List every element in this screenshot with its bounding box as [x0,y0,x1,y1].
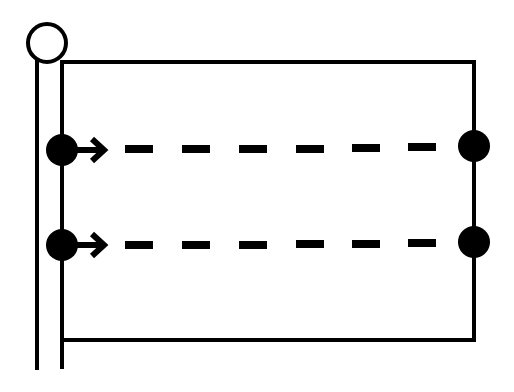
right-arrow-icon [76,139,104,161]
right-dot-icon [458,130,490,162]
left-dot-icon [46,229,78,261]
dash [125,241,153,249]
dash [408,239,436,247]
dash [125,145,153,153]
dashed-row-1 [46,130,490,166]
right-arrow-icon [76,234,104,256]
dash [239,145,267,153]
dash [296,240,324,248]
left-dot-icon [46,134,78,166]
flag-diagram [0,0,514,392]
dash [296,145,324,153]
dash [352,240,380,248]
diagram-canvas [0,0,514,392]
flag-outline [62,60,476,340]
finial-circle [28,24,66,62]
flagpole [28,24,66,370]
dashed-row-2 [46,226,490,261]
dash [408,143,436,151]
dash [182,145,210,153]
dash [352,144,380,152]
dash [239,241,267,249]
dash [182,241,210,249]
right-dot-icon [458,226,490,258]
